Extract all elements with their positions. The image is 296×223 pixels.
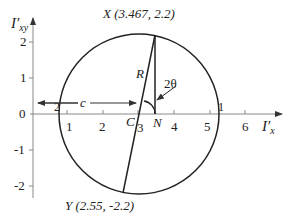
center-label: C: [126, 114, 135, 129]
x-tick-4: 4: [171, 119, 178, 134]
y-axis-label: I′xy: [10, 15, 29, 33]
mohr-circle-diagram: 2 1 0 -1 -2 I′xy 1 2 3 4 5 6 I′x c X (3.…: [0, 0, 296, 223]
x-tick-2: 2: [99, 119, 106, 134]
n-label: N: [152, 115, 163, 130]
point-x-label: X (3.467, 2.2): [102, 6, 175, 21]
radius-label: R: [135, 66, 144, 81]
y-tick-1: 1: [20, 70, 27, 85]
angle-label: 2θ: [164, 76, 177, 91]
x-tick-5: 5: [204, 119, 211, 134]
y-tick-2: 2: [20, 34, 27, 49]
y-tick-0: 0: [19, 106, 26, 121]
y-tick-neg1: -1: [14, 142, 25, 157]
angle-arc: [144, 101, 155, 114]
x-tick-6: 6: [242, 119, 249, 134]
intersect-1-label: 1: [218, 100, 224, 114]
c-label: c: [80, 95, 86, 110]
intersect-2-label: 2: [54, 100, 60, 114]
x-axis-label: I′x: [261, 118, 275, 136]
x-tick-1: 1: [66, 119, 73, 134]
point-y-label: Y (2.55, -2.2): [65, 198, 134, 213]
y-tick-neg2: -2: [14, 178, 25, 193]
y-axis: 2 1 0 -1 -2 I′xy: [10, 15, 33, 198]
